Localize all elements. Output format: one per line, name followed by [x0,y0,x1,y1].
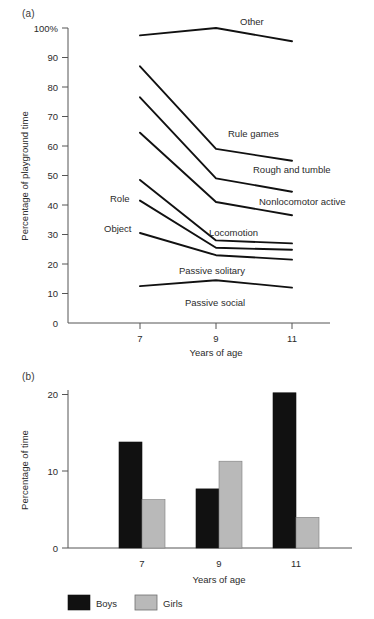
panel-a-ytick-10: 10 [47,288,58,299]
panel-b-ylabel: Percentage of time [19,430,30,510]
panel-a-xtick-9: 9 [213,333,218,344]
legend-swatch-boys [68,595,90,610]
panel-b-ytick-0: 0 [53,543,58,554]
legend-swatch-girls [135,595,157,610]
panel-a-ytick-20: 20 [47,259,58,270]
panel-a-label-locomotion: Locomotion [209,227,258,238]
panel-a-label-rule-games: Rule games [228,128,279,139]
bar-girls-9 [219,461,242,548]
bar-boys-9 [196,489,219,548]
panel-b-y-ticks [62,395,68,549]
panel-a-label-passive-solitary: Passive solitary [179,265,245,276]
bar-boys-11 [273,393,296,548]
panel-b-ytick-20: 20 [47,389,58,400]
panel-b-xlabel: Years of age [193,574,246,585]
panel-a-ytick-70: 70 [47,111,58,122]
panel-a-ylabel: Percentage of playground time [19,111,30,240]
panel-a-ytick-30: 30 [47,229,58,240]
panel-a-line-chart: 100% 90 80 70 60 50 40 30 20 10 0 7 9 11… [0,0,374,360]
panel-a-series-rough-and-tumble [140,97,292,191]
panel-a-series-other [140,28,292,41]
panel-b-bar-chart: 20 10 0 7 9 11 Years of age Percentage o… [0,360,374,619]
panel-a-label-nonlocomotor-active: Nonlocomotor active [259,196,346,207]
panel-a-ytick-0: 0 [53,318,58,329]
panel-a-ytick-80: 80 [47,82,58,93]
panel-a-ytick-90: 90 [47,52,58,63]
panel-b-xtick-7: 7 [139,558,144,569]
bar-girls-11 [296,517,319,548]
panel-a-ytick-100: 100% [34,23,59,34]
bar-boys-7 [119,442,142,548]
panel-a-y-ticks [62,28,68,294]
panel-a-x-ticks [140,323,292,329]
panel-a-label-rough-and-tumble: Rough and tumble [253,164,331,175]
panel-a-xtick-11: 11 [287,333,297,344]
panel-b-xtick-11: 11 [291,558,301,569]
panel-a-label-object: Object [104,223,132,234]
legend-label-boys: Boys [96,598,117,609]
panel-a-label-role: Role [110,193,130,204]
panel-a-label-other: Other [240,16,264,27]
panel-a-xlabel: Years of age [190,347,243,358]
panel-b-legend: Boys Girls [68,595,183,610]
panel-a-ytick-60: 60 [47,141,58,152]
panel-a-label-passive-social: Passive social [185,297,245,308]
panel-b-xtick-9: 9 [216,558,221,569]
panel-a-ytick-40: 40 [47,200,58,211]
panel-a-ytick-50: 50 [47,170,58,181]
panel-a-xtick-7: 7 [137,333,142,344]
panel-b-ytick-10: 10 [47,466,58,477]
legend-label-girls: Girls [163,598,183,609]
panel-a-series-rule-games [140,66,292,161]
bar-girls-7 [142,500,165,548]
figure-container: (a) 100% 90 80 70 60 50 40 30 20 10 0 [0,0,374,619]
panel-a-series-passive-solitary [140,280,292,287]
